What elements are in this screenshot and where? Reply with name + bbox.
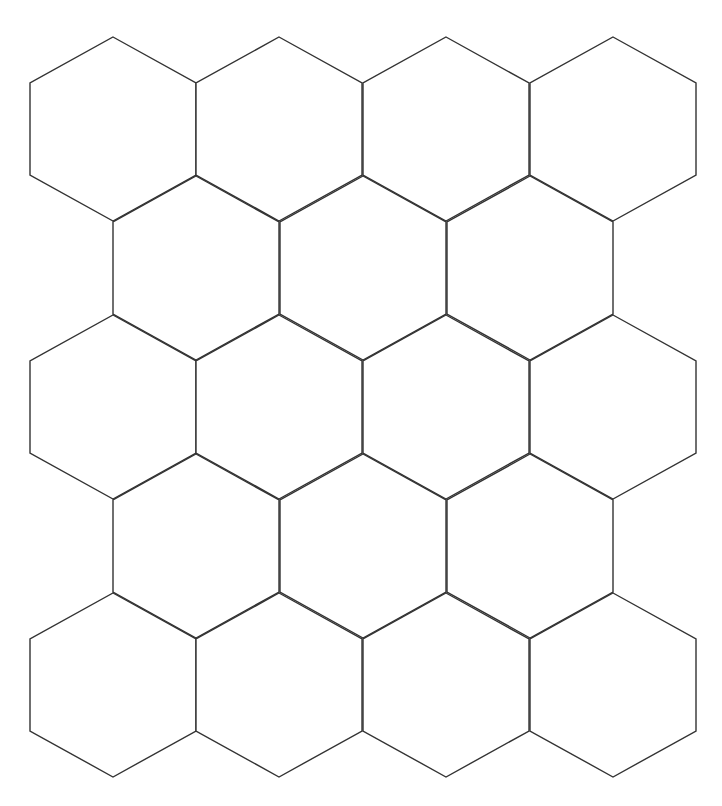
- hex-row-4: [113, 454, 613, 638]
- hex-row-2: [113, 176, 613, 360]
- hexagon-grid: [0, 0, 722, 806]
